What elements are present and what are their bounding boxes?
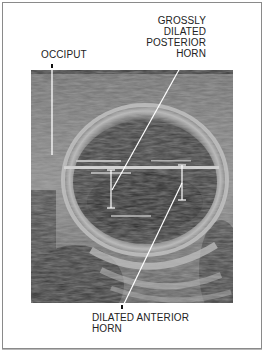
label-posterior-horn-line-2: DILATED	[146, 26, 206, 37]
label-anterior-horn: DILATED ANTERIOR HORN	[92, 312, 189, 334]
label-posterior-horn-line-4: HORN	[146, 48, 206, 59]
label-occiput: OCCIPUT	[41, 49, 87, 60]
label-posterior-horn-line-1: GROSSLY	[146, 15, 206, 26]
ultrasound-image	[31, 70, 233, 303]
label-anterior-horn-line-2: HORN	[92, 323, 189, 334]
label-posterior-horn-line-3: POSTERIOR	[146, 37, 206, 48]
label-anterior-horn-line-1: DILATED ANTERIOR	[92, 312, 189, 323]
label-posterior-horn: GROSSLY DILATED POSTERIOR HORN	[146, 15, 206, 59]
